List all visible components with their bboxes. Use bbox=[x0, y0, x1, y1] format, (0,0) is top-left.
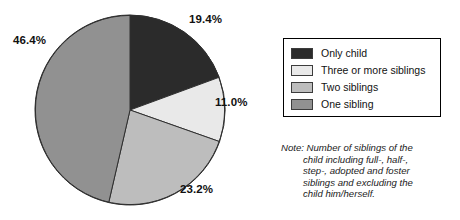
legend-swatch-one-sibling bbox=[291, 99, 313, 110]
legend-swatch-three-or-more-siblings bbox=[291, 65, 313, 76]
note-line-3: step-, adopted and foster bbox=[281, 165, 457, 177]
note-line-1: Note: Number of siblings of the bbox=[281, 142, 457, 154]
legend-label-three-or-more-siblings: Three or more siblings bbox=[321, 65, 425, 76]
pie-label-only-child: 19.4% bbox=[189, 13, 222, 25]
legend-swatch-only-child bbox=[291, 48, 313, 59]
note-line-2: child including full-, half-, bbox=[281, 154, 457, 166]
chart-note: Note: Number of siblings of the child in… bbox=[281, 142, 457, 200]
pie-slice-group bbox=[35, 15, 225, 205]
pie-label-one-sibling: 46.4% bbox=[13, 34, 46, 46]
pie-label-two-siblings: 23.2% bbox=[180, 183, 213, 195]
note-line-5: child him/herself. bbox=[281, 188, 457, 200]
legend-label-one-sibling: One sibling bbox=[321, 99, 374, 110]
legend-label-only-child: Only child bbox=[321, 48, 367, 59]
pie-chart-plot-area bbox=[30, 10, 230, 210]
legend-item-one-sibling: One sibling bbox=[291, 96, 440, 113]
note-line-4: siblings and excluding the bbox=[281, 177, 457, 189]
legend-item-three-or-more-siblings: Three or more siblings bbox=[291, 62, 440, 79]
pie-chart-figure: 19.4% 11.0% 23.2% 46.4% Only child Three… bbox=[0, 0, 460, 220]
legend-item-two-siblings: Two siblings bbox=[291, 79, 440, 96]
legend-label-two-siblings: Two siblings bbox=[321, 82, 378, 93]
legend-swatch-two-siblings bbox=[291, 82, 313, 93]
legend-item-only-child: Only child bbox=[291, 45, 440, 62]
pie-label-three-or-more-siblings: 11.0% bbox=[215, 96, 247, 108]
chart-legend: Only child Three or more siblings Two si… bbox=[283, 38, 441, 117]
pie-svg bbox=[30, 10, 230, 210]
